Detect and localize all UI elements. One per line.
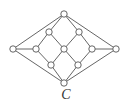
node-mid-left (33, 46, 39, 52)
node-upper-right (76, 29, 82, 35)
node-mid-right (89, 46, 95, 52)
graph-nodes (10, 11, 119, 86)
edge-left-bottom (13, 49, 64, 83)
node-bottom (61, 80, 67, 86)
node-right (113, 46, 119, 52)
edge-top-right (64, 14, 116, 49)
node-lower-left (48, 62, 54, 68)
node-upper-left (46, 29, 52, 35)
node-left (10, 46, 16, 52)
node-lower-right (75, 62, 81, 68)
edge-right-bottom (64, 49, 116, 83)
edge-top-left (13, 14, 64, 49)
node-center (61, 46, 67, 52)
diagram-label: C (0, 88, 132, 102)
node-top (61, 11, 67, 17)
